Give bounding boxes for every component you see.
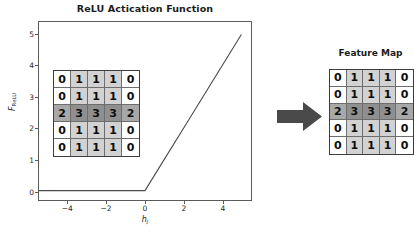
input-matrix-cell: 1 — [88, 139, 105, 156]
y-tick-mark — [35, 65, 38, 66]
y-tick-label: 0 — [20, 187, 34, 196]
y-axis-label: FReLU — [8, 93, 17, 111]
input-matrix-cell: 1 — [71, 71, 88, 88]
x-tick-mark — [223, 201, 224, 204]
y-axis-label-symbol: F — [8, 106, 17, 111]
input-matrix-cell: 1 — [71, 139, 88, 156]
feature-map-cell: 2 — [396, 104, 413, 121]
input-matrix-cell: 1 — [105, 88, 122, 105]
input-matrix-cell: 0 — [122, 122, 139, 139]
y-tick-label: 4 — [20, 61, 34, 70]
input-matrix-cell: 0 — [54, 71, 71, 88]
feature-map-cell: 0 — [396, 87, 413, 104]
feature-map-cell: 1 — [380, 137, 397, 154]
x-axis-label-subscript: j — [147, 218, 149, 224]
feature-map-cell: 1 — [363, 70, 380, 87]
y-tick-mark — [35, 128, 38, 129]
feature-map-cell: 2 — [330, 104, 347, 121]
feature-map-cell: 1 — [363, 87, 380, 104]
y-tick-mark — [35, 160, 38, 161]
feature-map-cell: 0 — [330, 120, 347, 137]
input-matrix-cell: 1 — [105, 71, 122, 88]
input-matrix-cell: 1 — [88, 88, 105, 105]
feature-map-cell: 1 — [363, 137, 380, 154]
input-matrix-cell: 3 — [71, 105, 88, 122]
feature-map-cell: 0 — [330, 87, 347, 104]
input-matrix-cell: 0 — [122, 71, 139, 88]
feature-map-cell: 0 — [396, 137, 413, 154]
input-matrix-cell: 0 — [54, 139, 71, 156]
x-tick-label: 0 — [133, 204, 157, 213]
x-tick-mark — [145, 201, 146, 204]
input-matrix-cell: 0 — [122, 88, 139, 105]
y-axis-label-subscript: ReLU — [11, 93, 17, 107]
y-tick-label: 5 — [20, 29, 34, 38]
x-tick-label: −2 — [94, 204, 118, 213]
feature-map-cell: 0 — [330, 70, 347, 87]
feature-map-cell: 0 — [330, 137, 347, 154]
input-matrix-cell: 1 — [105, 139, 122, 156]
input-matrix-cell: 0 — [122, 139, 139, 156]
flow-arrow — [277, 100, 322, 133]
feature-map-cell: 1 — [380, 120, 397, 137]
feature-map-title: Feature Map — [329, 48, 412, 58]
feature-map-cell: 1 — [347, 87, 364, 104]
figure-canvas: ReLU Actication Function FReLU 012345−4−… — [0, 0, 418, 236]
x-tick-mark — [106, 201, 107, 204]
input-matrix-cell: 2 — [54, 105, 71, 122]
input-matrix-cell: 1 — [88, 122, 105, 139]
right-arrow-icon — [277, 100, 322, 133]
plot-title: ReLU Actication Function — [38, 3, 252, 14]
input-matrix-cell: 1 — [71, 122, 88, 139]
y-tick-mark — [35, 34, 38, 35]
input-matrix-cell: 0 — [54, 88, 71, 105]
feature-map-matrix: 0111001110233320111001110 — [329, 69, 414, 155]
y-tick-mark — [35, 192, 38, 193]
feature-map-cell: 1 — [347, 120, 364, 137]
input-matrix-cell: 1 — [88, 71, 105, 88]
feature-map-cell: 0 — [396, 120, 413, 137]
x-tick-label: 4 — [211, 204, 235, 213]
input-feature-matrix: 0111001110233320111001110 — [53, 70, 140, 157]
feature-map-cell: 1 — [380, 87, 397, 104]
feature-map-cell: 1 — [363, 120, 380, 137]
y-tick-mark — [35, 97, 38, 98]
input-matrix-cell: 2 — [122, 105, 139, 122]
y-tick-label: 3 — [20, 92, 34, 101]
x-tick-mark — [67, 201, 68, 204]
x-tick-label: 2 — [172, 204, 196, 213]
x-axis-label: hj — [142, 215, 149, 224]
input-matrix-cell: 1 — [105, 122, 122, 139]
x-tick-label: −4 — [55, 204, 79, 213]
feature-map-cell: 3 — [347, 104, 364, 121]
feature-map-cell: 0 — [396, 70, 413, 87]
x-tick-mark — [184, 201, 185, 204]
feature-map-cell: 1 — [380, 70, 397, 87]
y-tick-label: 2 — [20, 124, 34, 133]
feature-map-cell: 3 — [363, 104, 380, 121]
feature-map-cell: 3 — [380, 104, 397, 121]
input-matrix-cell: 3 — [88, 105, 105, 122]
y-tick-label: 1 — [20, 155, 34, 164]
input-matrix-cell: 1 — [71, 88, 88, 105]
feature-map-cell: 1 — [347, 137, 364, 154]
input-matrix-cell: 3 — [105, 105, 122, 122]
input-matrix-cell: 0 — [54, 122, 71, 139]
feature-map-cell: 1 — [347, 70, 364, 87]
